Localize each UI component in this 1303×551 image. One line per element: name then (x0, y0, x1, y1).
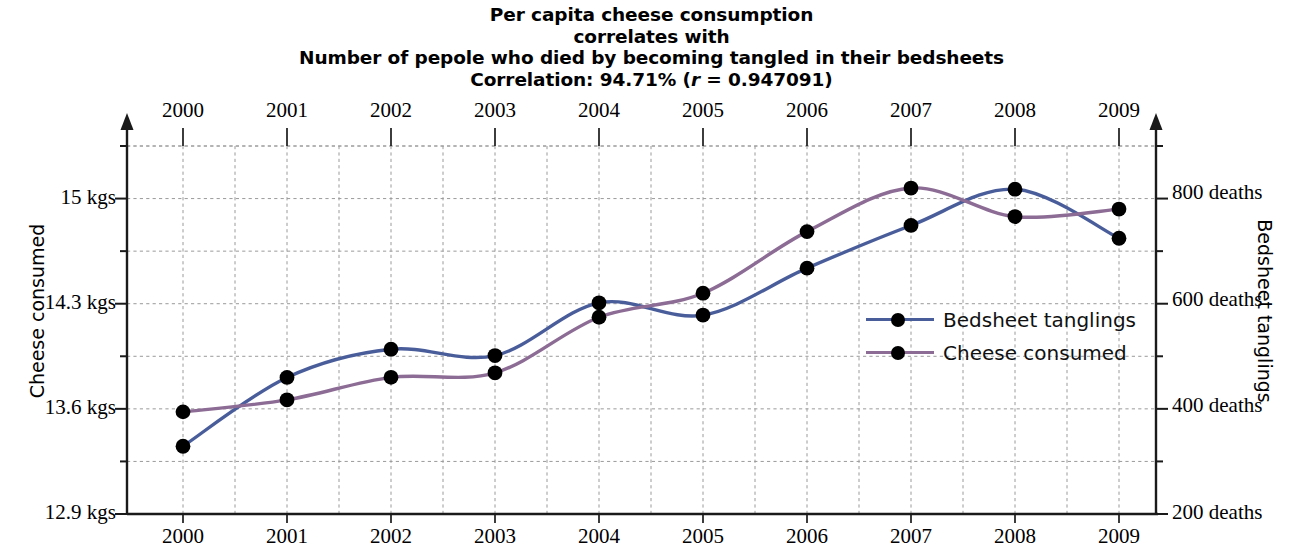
data-point-bedsheet-tanglings (592, 295, 607, 310)
top-year-label-6: 2006 (767, 98, 847, 123)
chart-root: Per capita cheese consumption correlates… (0, 0, 1303, 551)
top-year-label-3: 2003 (455, 98, 535, 123)
left-tick-label-2: 13.6 kgs (0, 395, 116, 420)
plot-area (0, 0, 1303, 551)
bottom-year-label-9: 2009 (1079, 524, 1159, 549)
legend-label-cheese-consumed: Cheese consumed (943, 341, 1127, 365)
data-point-bedsheet-tanglings (1008, 182, 1023, 197)
data-point-cheese-consumed (488, 365, 503, 380)
bottom-year-label-3: 2003 (455, 524, 535, 549)
top-year-label-5: 2005 (663, 98, 743, 123)
bottom-year-label-6: 2006 (767, 524, 847, 549)
legend-marker-bedsheet (891, 313, 905, 327)
bottom-year-label-8: 2008 (975, 524, 1055, 549)
top-year-label-1: 2001 (247, 98, 327, 123)
data-point-bedsheet-tanglings (904, 218, 919, 233)
top-year-label-7: 2007 (871, 98, 951, 123)
right-tick-label-1: 600 deaths (1172, 287, 1303, 312)
bottom-year-label-4: 2004 (559, 524, 639, 549)
data-point-cheese-consumed (384, 370, 399, 385)
data-point-bedsheet-tanglings (800, 261, 815, 276)
top-year-label-0: 2000 (143, 98, 223, 123)
legend-item-bedsheet-tanglings[interactable]: Bedsheet tanglings (866, 303, 1136, 336)
data-point-cheese-consumed (176, 404, 191, 419)
data-point-bedsheet-tanglings (176, 439, 191, 454)
right-tick-label-2: 400 deaths (1172, 393, 1303, 418)
legend-label-bedsheet-tanglings: Bedsheet tanglings (943, 308, 1136, 332)
data-point-bedsheet-tanglings (488, 348, 503, 363)
legend-item-cheese-consumed[interactable]: Cheese consumed (866, 336, 1136, 369)
chart-legend: Bedsheet tanglings Cheese consumed (866, 303, 1136, 369)
data-point-bedsheet-tanglings (384, 342, 399, 357)
data-point-cheese-consumed (592, 310, 607, 325)
left-tick-label-0: 15 kgs (0, 185, 116, 210)
data-point-bedsheet-tanglings (1112, 231, 1127, 246)
top-year-label-2: 2002 (351, 98, 431, 123)
data-point-cheese-consumed (1008, 209, 1023, 224)
bottom-year-label-7: 2007 (871, 524, 951, 549)
legend-marker-cheese (891, 346, 905, 360)
data-point-cheese-consumed (280, 392, 295, 407)
data-point-cheese-consumed (800, 224, 815, 239)
right-tick-label-3: 200 deaths (1172, 500, 1303, 525)
data-point-bedsheet-tanglings (280, 370, 295, 385)
legend-swatch-bedsheet-tanglings (866, 311, 934, 329)
data-point-cheese-consumed (696, 286, 711, 301)
legend-swatch-cheese-consumed (866, 344, 934, 362)
bottom-year-label-1: 2001 (247, 524, 327, 549)
right-tick-label-0: 800 deaths (1172, 180, 1303, 205)
data-point-cheese-consumed (904, 181, 919, 196)
data-point-bedsheet-tanglings (696, 308, 711, 323)
bottom-year-label-5: 2005 (663, 524, 743, 549)
data-point-cheese-consumed (1112, 202, 1127, 217)
bottom-year-label-2: 2002 (351, 524, 431, 549)
bottom-year-label-0: 2000 (143, 524, 223, 549)
top-year-label-8: 2008 (975, 98, 1055, 123)
left-tick-label-1: 14.3 kgs (0, 290, 116, 315)
top-year-label-4: 2004 (559, 98, 639, 123)
left-axis-arrow-icon (121, 113, 134, 130)
top-year-label-9: 2009 (1079, 98, 1159, 123)
left-tick-label-3: 12.9 kgs (0, 500, 116, 525)
